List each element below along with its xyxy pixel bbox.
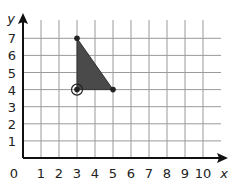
vertex-point [74, 87, 80, 93]
coordinate-grid: 1234567891012345670xy [0, 0, 239, 187]
grid-lines [23, 20, 221, 158]
x-tick-label: 10 [195, 166, 212, 181]
y-tick-label: 2 [8, 117, 16, 132]
y-tick-label: 3 [8, 100, 16, 115]
x-axis-label: x [219, 166, 228, 181]
origin-label: 0 [10, 166, 18, 181]
x-tick-label: 2 [55, 166, 63, 181]
y-tick-label: 7 [8, 31, 16, 46]
x-tick-label: 6 [127, 166, 135, 181]
x-tick-label: 4 [91, 166, 99, 181]
y-tick-label: 5 [8, 66, 16, 81]
y-tick-label: 4 [8, 83, 16, 98]
y-tick-label: 6 [8, 48, 16, 63]
x-tick-label: 5 [109, 166, 117, 181]
x-tick-label: 1 [37, 166, 45, 181]
x-tick-label: 7 [145, 166, 153, 181]
vertex-point [110, 87, 116, 93]
y-tick-label: 1 [8, 134, 16, 149]
x-tick-label: 9 [181, 166, 189, 181]
y-axis-label: y [6, 11, 15, 26]
axis-labels: 1234567891012345670xy [6, 11, 228, 181]
x-tick-label: 3 [73, 166, 81, 181]
vertex-point [74, 36, 80, 42]
x-tick-label: 8 [163, 166, 171, 181]
